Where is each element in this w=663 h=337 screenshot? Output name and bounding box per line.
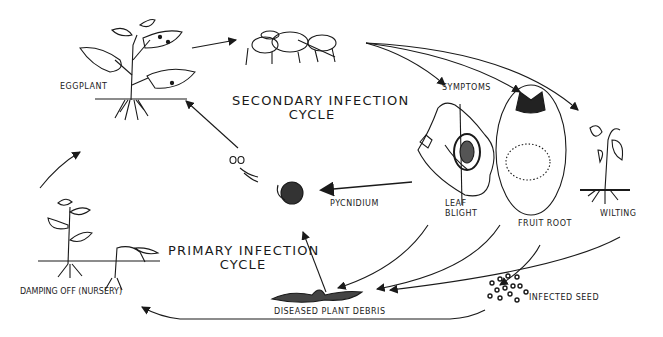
pycnidium-drawing (230, 157, 303, 205)
secondary-title-line1: SECONDARY INFECTION (232, 94, 392, 108)
secondary-cycle-title: SECONDARY INFECTION CYCLE (232, 94, 392, 122)
eggplant-drawing (80, 20, 195, 120)
cycle-arrows (40, 40, 620, 319)
leaf-blight-drawing (418, 103, 494, 205)
primary-title-line1: PRIMARY INFECTION (168, 244, 318, 258)
damping-off-drawing (38, 199, 160, 290)
eggplant-label: EGGPLANT (60, 82, 107, 91)
primary-cycle-title: PRIMARY INFECTION CYCLE (168, 244, 318, 272)
leaf-blight-label-2: BLIGHT (445, 209, 477, 218)
fruit-root-drawing (496, 85, 566, 215)
secondary-title-line2: CYCLE (232, 108, 392, 122)
fruit-root-label: FRUIT ROOT (518, 219, 572, 228)
diseased-debris-label: DISEASED PLANT DEBRIS (274, 307, 386, 316)
damping-off-label: DAMPING OFF (NURSERY) (20, 287, 122, 296)
disease-cycle-diagram: EGGPLANT SECONDARY INFECTION CYCLE SYMPT… (0, 0, 663, 337)
leaf-blight-label-1: LEAF (445, 199, 467, 208)
debris-drawing (272, 290, 362, 302)
primary-title-line2: CYCLE (168, 258, 318, 272)
symptoms-label: SYMPTOMS (442, 83, 491, 92)
infected-seed-label: INFECTED SEED (529, 293, 599, 302)
pycnidium-label: PYCNIDIUM (330, 199, 379, 208)
infected-seed-drawing (488, 274, 528, 302)
wilting-plant-drawing (580, 126, 630, 204)
infected-cells-drawing (246, 31, 336, 65)
wilting-label: WILTING (600, 209, 637, 218)
